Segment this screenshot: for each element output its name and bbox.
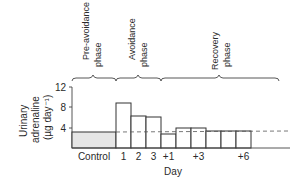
y-tick-8: 8: [60, 102, 66, 113]
phase-label-pre-line1: Pre-avoidance: [81, 2, 91, 60]
x-tick-2: 2: [136, 151, 142, 162]
bars: [72, 103, 251, 148]
phase-label-avoid-line2: phase: [139, 42, 149, 67]
phase-braces: [72, 75, 279, 81]
bar-day-plus1: [161, 134, 176, 148]
y-tick-12: 12: [55, 82, 67, 93]
phase-label-pre-line2: phase: [93, 42, 103, 67]
y-tick-4: 4: [60, 123, 66, 134]
chart: Pre-avoidance phase Avoidance phase Reco…: [0, 0, 296, 184]
x-tick-plus1: +1: [163, 151, 175, 162]
x-tick-plus3: +3: [193, 151, 205, 162]
x-tick-plus6: +6: [238, 151, 250, 162]
phase-label-recovery-line1: Recovery: [210, 31, 220, 70]
y-label-line2: adrenaline: [30, 96, 41, 143]
brace-pre: [72, 75, 116, 81]
bar-day-plus3: [191, 128, 206, 148]
phase-label-recovery-line2: phase: [222, 42, 232, 67]
bar-day-plus5: [221, 131, 236, 148]
brace-avoid: [116, 75, 161, 81]
x-tick-3: 3: [151, 151, 157, 162]
x-tick-labels: Control 1 2 3 +1 +3 +6: [78, 151, 250, 162]
brace-recovery: [161, 75, 279, 81]
phase-labels: Pre-avoidance phase Avoidance phase Reco…: [81, 2, 232, 70]
bar-day-1: [116, 103, 131, 148]
bar-day-plus2: [176, 128, 191, 148]
phase-label-avoid-line1: Avoidance: [127, 18, 137, 60]
x-tick-1: 1: [121, 151, 127, 162]
bar-control: [72, 132, 116, 148]
y-label-line3: (µg day⁻¹): [42, 95, 53, 140]
x-tick-control: Control: [78, 151, 110, 162]
y-axis-label: Urinary adrenaline (µg day⁻¹): [18, 95, 53, 143]
bar-day-plus6: [236, 131, 251, 148]
x-axis-label: Day: [164, 166, 182, 177]
bar-day-3: [146, 117, 161, 148]
y-label-line1: Urinary: [18, 105, 29, 137]
bar-day-plus4: [206, 131, 221, 148]
